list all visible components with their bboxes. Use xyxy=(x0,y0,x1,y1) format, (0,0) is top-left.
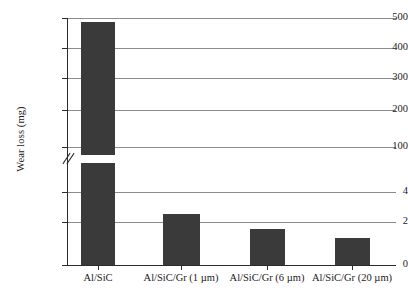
y-tick-label-300: 300 xyxy=(364,71,408,82)
bar-al-sic-lower xyxy=(81,163,115,265)
y-tick-0 xyxy=(62,265,67,266)
y-axis-line xyxy=(67,18,68,265)
axis-break-marker xyxy=(61,150,75,168)
y-tick-300 xyxy=(62,78,67,79)
y-tick-label-500: 500 xyxy=(364,11,408,22)
grid-line-0 xyxy=(67,18,396,19)
x-tick-label-2: Al/SiC/Gr (6 µm) xyxy=(230,272,305,283)
x-tick-1 xyxy=(181,265,182,270)
x-tick-0 xyxy=(98,265,99,270)
y-tick-200 xyxy=(62,110,67,111)
x-tick-label-3: Al/SiC/Gr (20 µm) xyxy=(312,272,392,283)
grid-line-1 xyxy=(67,48,396,49)
y-tick-500 xyxy=(62,18,67,19)
y-tick-400 xyxy=(62,48,67,49)
bar-al-sic xyxy=(81,22,115,155)
y-tick-label-2: 2 xyxy=(364,215,408,226)
y-tick-label-200: 200 xyxy=(364,103,408,114)
x-tick-label-0: Al/SiC xyxy=(83,272,112,283)
grid-line-6 xyxy=(67,222,396,223)
x-tick-3 xyxy=(352,265,353,270)
grid-line-4 xyxy=(67,147,396,148)
y-tick-label-400: 400 xyxy=(364,41,408,52)
bar-al-sic-gr-20-m- xyxy=(335,238,370,265)
x-axis-line xyxy=(67,265,396,266)
y-tick-label-0: 0 xyxy=(364,258,408,269)
grid-line-2 xyxy=(67,78,396,79)
y-tick-label-4: 4 xyxy=(364,185,408,196)
bar-al-sic-gr-1-m- xyxy=(163,214,200,265)
wear-loss-bar-chart: Wear loss (mg) 500400300200100420 Al/SiC… xyxy=(0,0,408,297)
y-tick-label-100: 100 xyxy=(364,140,408,151)
y-axis-label: Wear loss (mg) xyxy=(15,59,29,219)
x-tick-label-1: Al/SiC/Gr (1 µm) xyxy=(144,272,219,283)
x-tick-2 xyxy=(267,265,268,270)
bar-al-sic-gr-6-m- xyxy=(250,229,285,265)
y-tick-2 xyxy=(62,222,67,223)
grid-line-5 xyxy=(67,192,396,193)
y-tick-100 xyxy=(62,147,67,148)
y-tick-4 xyxy=(62,192,67,193)
grid-line-3 xyxy=(67,110,396,111)
